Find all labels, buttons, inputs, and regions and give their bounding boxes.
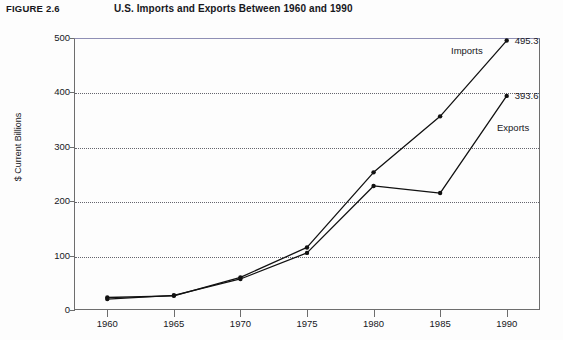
- imports-end-value: 495.3: [515, 35, 539, 46]
- y-axis-ticks: 0100200300400500: [30, 38, 70, 310]
- y-tick-label-200: 200: [36, 195, 70, 206]
- y-tick-label-500: 500: [36, 32, 70, 43]
- x-axis-ticks: 1960196519701975198019851990: [74, 310, 540, 340]
- exports-end-value: 393.6: [515, 90, 539, 101]
- y-axis-title: $ Current Billions: [13, 82, 23, 212]
- plot-frame: [74, 38, 540, 310]
- imports-series-label: Imports: [451, 45, 483, 56]
- x-tick-label-1970: 1970: [215, 318, 265, 329]
- x-tick-mark-1990: [507, 310, 508, 317]
- x-tick-mark-1970: [240, 310, 241, 317]
- gridline-200: [75, 202, 539, 203]
- x-tick-label-1960: 1960: [82, 318, 132, 329]
- y-tick-label-100: 100: [36, 250, 70, 261]
- figure-number-label: FIGURE 2.6: [6, 3, 60, 14]
- x-tick-label-1990: 1990: [482, 318, 532, 329]
- y-tick-label-300: 300: [36, 141, 70, 152]
- x-tick-mark-1975: [307, 310, 308, 317]
- x-tick-mark-1960: [107, 310, 108, 317]
- chart-area: $ Current Billions 0100200300400500 1960…: [0, 22, 563, 340]
- x-tick-label-1980: 1980: [349, 318, 399, 329]
- y-tick-label-400: 400: [36, 86, 70, 97]
- x-tick-label-1965: 1965: [149, 318, 199, 329]
- x-tick-mark-1985: [440, 310, 441, 317]
- chart-title: U.S. Imports and Exports Between 1960 an…: [114, 3, 353, 14]
- x-tick-label-1985: 1985: [415, 318, 465, 329]
- exports-series-label: Exports: [497, 122, 529, 133]
- y-tick-label-0: 0: [36, 304, 70, 315]
- figure-header: FIGURE 2.6 U.S. Imports and Exports Betw…: [0, 0, 563, 22]
- x-tick-mark-1965: [174, 310, 175, 317]
- gridline-300: [75, 148, 539, 149]
- x-tick-mark-1980: [374, 310, 375, 317]
- gridline-100: [75, 257, 539, 258]
- x-tick-label-1975: 1975: [282, 318, 332, 329]
- gridline-400: [75, 93, 539, 94]
